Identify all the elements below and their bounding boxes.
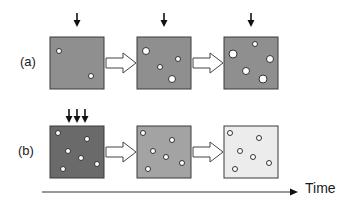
row-label-b: (b)	[18, 143, 34, 158]
particle-circle-a-3-4	[243, 68, 250, 75]
particle-circle-b-2-3	[151, 149, 156, 154]
particle-circle-b-2-2	[170, 138, 175, 143]
particle-circle-a-3-2	[229, 50, 237, 58]
diagram-canvas	[0, 0, 352, 213]
time-axis-arrowhead-icon	[290, 189, 298, 196]
particle-circle-a-3-5	[259, 75, 267, 83]
down-arrow-icon-b-1-2	[74, 116, 81, 123]
particle-circle-b-3-3	[238, 149, 243, 154]
particle-circle-b-3-1	[228, 131, 233, 136]
particle-circle-b-2-6	[146, 167, 151, 172]
transition-arrow-icon-b-2	[193, 142, 223, 162]
transition-arrow-icon-b-1	[106, 142, 136, 162]
particle-circle-a-2-3	[176, 57, 181, 62]
particle-circle-b-3-2	[257, 136, 262, 141]
box-a-1	[50, 37, 104, 89]
particle-circle-b-2-5	[180, 161, 185, 166]
box-a-2	[137, 37, 191, 89]
particle-circle-b-1-6	[61, 167, 66, 172]
particle-circle-a-1-2	[89, 74, 94, 79]
row-label-a: (a)	[20, 54, 36, 69]
particle-circle-b-1-2	[85, 137, 90, 142]
particle-circle-a-2-1	[143, 48, 150, 55]
particle-circle-a-1-1	[57, 49, 62, 54]
particle-circle-b-3-4	[251, 155, 256, 160]
particle-circle-a-3-1	[253, 42, 258, 47]
particle-circle-b-2-4	[164, 155, 169, 160]
particle-circle-a-2-4	[169, 76, 176, 83]
down-arrow-icon-a-3	[248, 20, 255, 27]
particle-circle-b-2-1	[141, 131, 146, 136]
particle-circle-b-3-5	[267, 161, 272, 166]
particle-circle-b-1-3	[66, 149, 71, 154]
particle-circle-a-2-2	[158, 65, 163, 70]
down-arrow-icon-b-1-3	[82, 116, 89, 123]
down-arrow-icon-a-2	[161, 20, 168, 27]
particle-circle-a-3-3	[267, 56, 274, 63]
particle-circle-b-3-6	[233, 167, 238, 172]
transition-arrow-icon-a-2	[193, 53, 223, 73]
particle-circle-b-1-1	[56, 131, 61, 136]
transition-arrow-icon-a-1	[106, 53, 136, 73]
time-axis-label: Time	[305, 180, 336, 196]
box-a-3	[224, 37, 278, 89]
particle-circle-b-1-4	[79, 156, 84, 161]
down-arrow-icon-b-1-1	[66, 116, 73, 123]
down-arrow-icon-a-1	[74, 20, 81, 27]
particle-circle-b-1-5	[95, 162, 100, 167]
